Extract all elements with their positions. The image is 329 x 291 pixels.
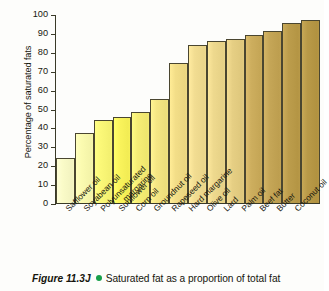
y-axis-tick-label: 60 — [38, 85, 48, 96]
y-axis-tick-label: 70 — [38, 66, 48, 77]
bar-slot — [282, 15, 301, 203]
x-axis-label-slot: Corn oil — [126, 205, 144, 263]
y-axis-tick-label: 90 — [38, 28, 48, 39]
x-axis-label-slot: Palm oil — [232, 205, 250, 263]
bar-slot — [75, 15, 94, 203]
y-axis-tick-label: 100 — [33, 9, 48, 20]
x-axis-label-slot: Hard margarine — [179, 205, 197, 263]
y-axis-tick-label: 30 — [38, 141, 48, 152]
x-axis-label-slot: Rapeseed oil — [162, 205, 180, 263]
x-axis-label-slot: Sunflower oil — [109, 205, 127, 263]
x-axis-label-slot: Groundnut oil — [144, 205, 162, 263]
bar-slot — [56, 15, 75, 203]
bar[interactable] — [263, 31, 282, 203]
x-axis-label-slot: Coconut oil — [285, 205, 303, 263]
bullet-icon — [96, 275, 102, 281]
figure-caption: Figure 11.3JSaturated fat as a proportio… — [32, 272, 324, 285]
x-axis-label-slot: Safflower oil — [56, 205, 74, 263]
x-axis-label-slot: Lard — [214, 205, 232, 263]
x-axis-label-slot: Olive oil — [197, 205, 215, 263]
bar[interactable] — [301, 20, 320, 203]
y-axis-tick-label: 10 — [38, 179, 48, 190]
bar-slot — [263, 15, 282, 203]
bar-slot — [94, 15, 113, 203]
x-axis-label-slot: Soyabean oil — [74, 205, 92, 263]
bar[interactable] — [282, 23, 301, 203]
caption-text: Saturated fat as a proportion of total f… — [106, 273, 281, 284]
x-axis-tick-labels: Safflower oilSoyabean oilPolyunsaturated… — [56, 205, 320, 263]
bar[interactable] — [245, 35, 264, 203]
bar-slot — [301, 15, 320, 203]
y-axis-tick-label: 80 — [38, 47, 48, 58]
x-axis-label-slot: Beef fat — [250, 205, 268, 263]
x-axis-label-slot: Butter — [267, 205, 285, 263]
caption-figure-number: Figure 11.3J — [32, 273, 91, 284]
y-axis-title: Percentage of saturated fats — [23, 17, 33, 187]
y-axis-tick-label: 0 — [43, 198, 48, 209]
bar-slot — [245, 15, 264, 203]
y-axis-tick-label: 40 — [38, 122, 48, 133]
y-axis-tick-label: 20 — [38, 160, 48, 171]
x-axis-label-slot: Polyunsaturatedmargarine — [91, 205, 109, 263]
bar[interactable] — [226, 39, 245, 203]
y-axis-tick-label: 50 — [38, 104, 48, 115]
